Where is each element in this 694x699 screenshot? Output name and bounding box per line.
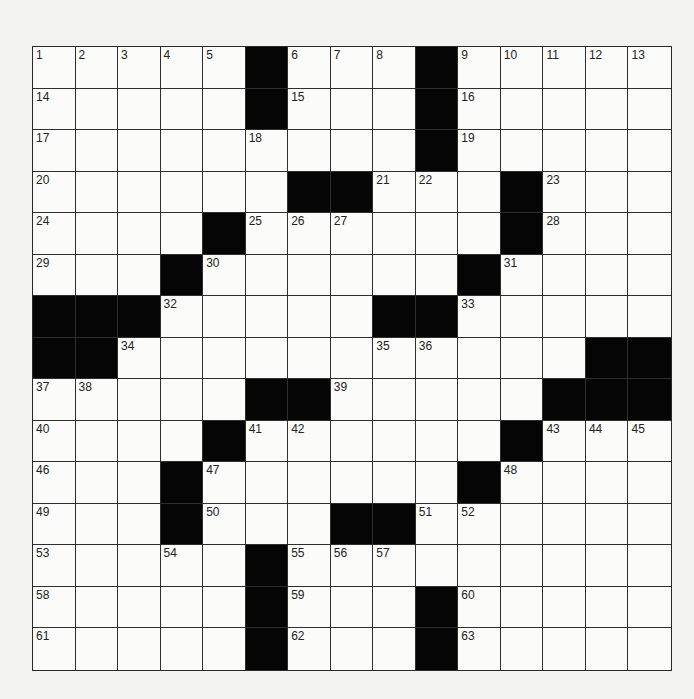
crossword-cell[interactable] (373, 213, 416, 255)
crossword-cell[interactable] (543, 587, 586, 629)
crossword-cell[interactable] (586, 296, 629, 338)
crossword-cell[interactable]: 40 (33, 421, 76, 463)
crossword-cell[interactable]: 38 (76, 379, 119, 421)
crossword-cell[interactable]: 27 (331, 213, 374, 255)
crossword-cell[interactable] (203, 545, 246, 587)
crossword-cell[interactable] (331, 130, 374, 172)
crossword-cell[interactable] (76, 172, 119, 214)
crossword-cell[interactable] (543, 504, 586, 546)
crossword-cell[interactable] (161, 421, 204, 463)
crossword-cell[interactable] (543, 89, 586, 131)
crossword-cell[interactable] (501, 338, 544, 380)
crossword-cell[interactable]: 62 (288, 628, 331, 670)
crossword-cell[interactable]: 59 (288, 587, 331, 629)
crossword-cell[interactable]: 50 (203, 504, 246, 546)
crossword-cell[interactable] (161, 213, 204, 255)
crossword-cell[interactable] (331, 628, 374, 670)
crossword-cell[interactable] (628, 89, 671, 131)
crossword-cell[interactable] (586, 628, 629, 670)
crossword-cell[interactable]: 16 (458, 89, 501, 131)
crossword-cell[interactable] (203, 587, 246, 629)
crossword-cell[interactable] (246, 255, 289, 297)
crossword-cell[interactable] (586, 255, 629, 297)
crossword-cell[interactable] (586, 545, 629, 587)
crossword-cell[interactable] (288, 462, 331, 504)
crossword-cell[interactable]: 1 (33, 47, 76, 89)
crossword-cell[interactable] (373, 379, 416, 421)
crossword-cell[interactable] (628, 172, 671, 214)
crossword-cell[interactable]: 61 (33, 628, 76, 670)
crossword-cell[interactable] (118, 213, 161, 255)
crossword-cell[interactable] (76, 628, 119, 670)
crossword-cell[interactable] (628, 628, 671, 670)
crossword-cell[interactable]: 58 (33, 587, 76, 629)
crossword-cell[interactable] (543, 255, 586, 297)
crossword-cell[interactable] (628, 130, 671, 172)
crossword-cell[interactable] (118, 545, 161, 587)
crossword-cell[interactable] (543, 130, 586, 172)
crossword-cell[interactable] (288, 255, 331, 297)
crossword-cell[interactable] (161, 89, 204, 131)
crossword-cell[interactable] (458, 379, 501, 421)
crossword-cell[interactable] (586, 462, 629, 504)
crossword-cell[interactable]: 13 (628, 47, 671, 89)
crossword-cell[interactable]: 12 (586, 47, 629, 89)
crossword-cell[interactable] (373, 421, 416, 463)
crossword-cell[interactable]: 4 (161, 47, 204, 89)
crossword-cell[interactable] (161, 628, 204, 670)
crossword-cell[interactable]: 9 (458, 47, 501, 89)
crossword-cell[interactable]: 10 (501, 47, 544, 89)
crossword-cell[interactable] (416, 379, 459, 421)
crossword-cell[interactable] (161, 587, 204, 629)
crossword-cell[interactable] (288, 504, 331, 546)
crossword-cell[interactable] (586, 172, 629, 214)
crossword-cell[interactable] (288, 338, 331, 380)
crossword-cell[interactable]: 7 (331, 47, 374, 89)
crossword-cell[interactable] (331, 421, 374, 463)
crossword-cell[interactable] (373, 462, 416, 504)
crossword-cell[interactable]: 29 (33, 255, 76, 297)
crossword-cell[interactable] (118, 172, 161, 214)
crossword-cell[interactable]: 14 (33, 89, 76, 131)
crossword-cell[interactable]: 11 (543, 47, 586, 89)
crossword-cell[interactable] (543, 338, 586, 380)
crossword-cell[interactable] (373, 130, 416, 172)
crossword-cell[interactable] (628, 296, 671, 338)
crossword-cell[interactable] (118, 587, 161, 629)
crossword-cell[interactable] (543, 545, 586, 587)
crossword-cell[interactable] (203, 172, 246, 214)
crossword-cell[interactable] (331, 587, 374, 629)
crossword-cell[interactable] (246, 462, 289, 504)
crossword-cell[interactable]: 63 (458, 628, 501, 670)
crossword-cell[interactable]: 19 (458, 130, 501, 172)
crossword-cell[interactable]: 32 (161, 296, 204, 338)
crossword-cell[interactable] (628, 213, 671, 255)
crossword-cell[interactable]: 3 (118, 47, 161, 89)
crossword-cell[interactable]: 37 (33, 379, 76, 421)
crossword-cell[interactable]: 23 (543, 172, 586, 214)
crossword-cell[interactable]: 44 (586, 421, 629, 463)
crossword-cell[interactable] (586, 504, 629, 546)
crossword-cell[interactable]: 24 (33, 213, 76, 255)
crossword-cell[interactable]: 43 (543, 421, 586, 463)
crossword-cell[interactable]: 20 (33, 172, 76, 214)
crossword-cell[interactable]: 41 (246, 421, 289, 463)
crossword-cell[interactable] (501, 587, 544, 629)
crossword-cell[interactable] (118, 379, 161, 421)
crossword-cell[interactable]: 30 (203, 255, 246, 297)
crossword-cell[interactable] (161, 130, 204, 172)
crossword-cell[interactable] (373, 89, 416, 131)
crossword-cell[interactable] (458, 421, 501, 463)
crossword-cell[interactable] (118, 89, 161, 131)
crossword-cell[interactable]: 48 (501, 462, 544, 504)
crossword-cell[interactable]: 53 (33, 545, 76, 587)
crossword-cell[interactable]: 56 (331, 545, 374, 587)
crossword-cell[interactable] (161, 338, 204, 380)
crossword-cell[interactable]: 42 (288, 421, 331, 463)
crossword-cell[interactable] (76, 255, 119, 297)
crossword-cell[interactable] (246, 338, 289, 380)
crossword-cell[interactable]: 21 (373, 172, 416, 214)
crossword-cell[interactable] (501, 130, 544, 172)
crossword-cell[interactable] (586, 213, 629, 255)
crossword-cell[interactable]: 15 (288, 89, 331, 131)
